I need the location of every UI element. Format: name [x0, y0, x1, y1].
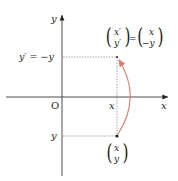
- y-prime-label: y′ = −y: [18, 51, 54, 62]
- x-tick-label: x: [109, 100, 115, 111]
- origin-label: O: [51, 100, 59, 111]
- point-image: [116, 56, 118, 58]
- y-label: y: [50, 130, 57, 141]
- svg-text:(: (: [106, 23, 112, 48]
- x-axis-label: x: [161, 100, 167, 111]
- svg-text:x′: x′: [114, 27, 121, 37]
- svg-text:(: (: [106, 139, 112, 164]
- svg-text:x: x: [149, 27, 154, 37]
- top-vector-equation: ( x′ y′ ) = ( x −y ): [106, 23, 164, 48]
- svg-text:=: =: [129, 34, 137, 44]
- point-original: [115, 134, 118, 137]
- svg-text:y′: y′: [113, 38, 121, 48]
- svg-text:): ): [123, 139, 129, 164]
- svg-text:x: x: [114, 143, 119, 153]
- svg-text:y: y: [113, 154, 120, 164]
- svg-text:−y: −y: [142, 38, 156, 48]
- bottom-vector: ( x y ): [106, 139, 128, 164]
- svg-text:): ): [158, 23, 164, 48]
- y-axis-label: y: [50, 13, 57, 24]
- reflection-diagram: y x O x y′ = −y y ( x′ y′ ) = ( x −y ) (…: [0, 0, 178, 181]
